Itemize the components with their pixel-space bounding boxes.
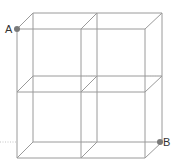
point-a: A	[5, 23, 20, 35]
front-face	[17, 29, 145, 158]
depth-edges	[17, 13, 162, 158]
cube-grid-diagram: A B	[0, 0, 174, 165]
point-b: B	[157, 136, 170, 148]
point-a-label: A	[5, 23, 13, 35]
point-b-label: B	[163, 136, 170, 148]
point-a-marker	[14, 26, 20, 32]
back-face	[33, 13, 162, 142]
